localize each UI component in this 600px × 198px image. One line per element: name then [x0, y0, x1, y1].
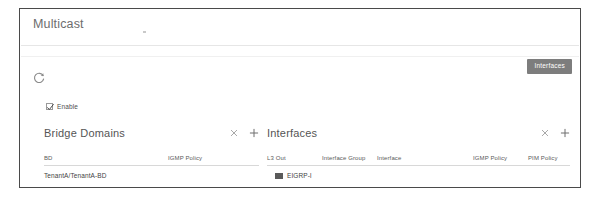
multicast-panel: Multicast Interfaces Enable Bridge Domai… [19, 8, 581, 188]
cell-l3-out-label: EIGRP-l [287, 172, 312, 179]
cell-l3-out: EIGRP-l [275, 172, 312, 179]
cell-bd: TenantA/TenantA-BD [44, 172, 107, 179]
page-title: Multicast [33, 17, 84, 31]
bridge-domains-table: BD IGMP Policy TenantA/TenantA-BD [44, 152, 259, 196]
column-header-interface: Interface [377, 155, 401, 161]
column-header-igmp-policy: IGMP Policy [168, 155, 202, 161]
panel-title-bar: Multicast [20, 9, 580, 45]
bridge-domains-add-icon[interactable] [249, 128, 259, 138]
interfaces-title: Interfaces [267, 127, 317, 139]
interfaces-delete-icon[interactable] [540, 128, 550, 138]
bridge-domains-actions [229, 128, 259, 138]
interfaces-actions [540, 128, 570, 138]
title-decorative-dot [143, 31, 146, 33]
bridge-domains-header: Bridge Domains [44, 127, 259, 147]
column-header-bd: BD [44, 155, 53, 161]
bridge-domains-title: Bridge Domains [44, 127, 125, 139]
refresh-icon[interactable] [32, 71, 46, 85]
interfaces-table: L3 Out Interface Group Interface IGMP Po… [267, 152, 570, 196]
section-interfaces: Interfaces L3 Out [267, 127, 570, 147]
interfaces-add-icon[interactable] [560, 128, 570, 138]
interfaces-tooltip-button[interactable]: Interfaces [527, 59, 572, 74]
table-header-row: L3 Out Interface Group Interface IGMP Po… [267, 152, 570, 166]
enable-checkbox-row[interactable]: Enable [46, 103, 78, 110]
enable-checkbox[interactable] [46, 103, 53, 110]
square-node-icon [275, 173, 283, 179]
column-header-igmp-policy: IGMP Policy [473, 155, 507, 161]
title-divider [21, 45, 579, 46]
column-header-interface-group: Interface Group [322, 155, 366, 161]
secondary-divider [21, 56, 579, 57]
table-row[interactable]: TenantA/TenantA-BD [44, 166, 259, 196]
sections-container: Bridge Domains BD [20, 127, 580, 187]
table-header-row: BD IGMP Policy [44, 152, 259, 166]
table-row[interactable]: EIGRP-l [267, 166, 570, 196]
bridge-domains-delete-icon[interactable] [229, 128, 239, 138]
column-header-l3-out: L3 Out [267, 155, 286, 161]
enable-label: Enable [57, 103, 78, 110]
column-header-pim-policy: PIM Policy [528, 155, 558, 161]
section-bridge-domains: Bridge Domains BD [44, 127, 259, 147]
interfaces-header: Interfaces [267, 127, 570, 147]
